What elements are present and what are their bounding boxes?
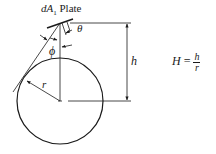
formula-denominator: r	[195, 63, 199, 73]
phi-arrow-mid	[50, 38, 57, 40]
phi-arrow-left	[40, 35, 47, 40]
plate-subscript: 1	[53, 9, 57, 17]
height-label: h	[131, 54, 137, 69]
phi-arrow-right	[62, 45, 72, 47]
radius-label: r	[42, 78, 46, 90]
plate-element-symbol: dA	[41, 2, 53, 14]
theta-label: θ	[77, 22, 82, 34]
diagram-canvas	[0, 0, 216, 154]
plate-word: Plate	[59, 2, 81, 14]
formula-equals: =	[184, 54, 191, 68]
theta-arrow	[66, 30, 72, 33]
plate-label: dA1 Plate	[41, 2, 81, 17]
formula-fraction: h r	[193, 52, 200, 73]
phi-label: ϕ	[49, 44, 55, 59]
formula: H = h r	[172, 52, 200, 73]
formula-lhs: H	[172, 54, 181, 68]
plate-normal-line	[62, 23, 66, 35]
